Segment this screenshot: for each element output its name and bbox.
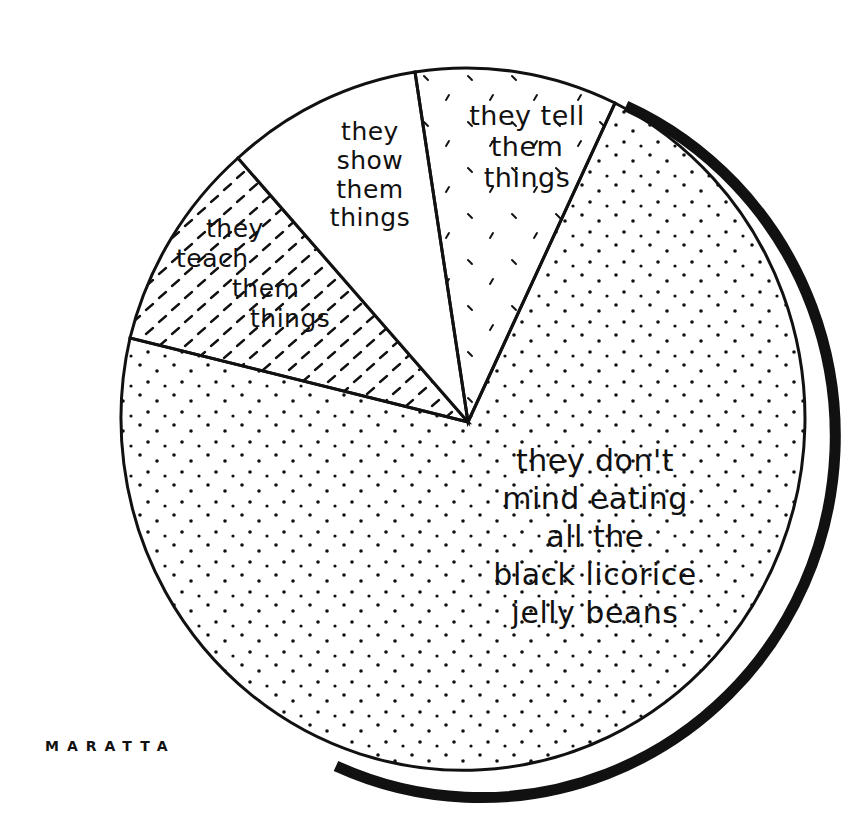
label-line: things — [452, 162, 602, 193]
label-line: jelly beans — [470, 594, 720, 632]
label-line: show — [300, 147, 440, 176]
label-licorice: they don't mind eating all the black lic… — [470, 442, 720, 632]
label-line: mind eating — [470, 480, 720, 518]
label-line: them — [300, 176, 440, 205]
label-line: they tell — [452, 100, 602, 131]
label-line: they — [300, 118, 440, 147]
label-line: they don't — [470, 442, 720, 480]
label-line: them — [168, 274, 338, 304]
label-tell: they tell them things — [452, 100, 602, 193]
label-line: them — [452, 131, 602, 162]
label-line: things — [168, 304, 338, 334]
label-line: teach — [168, 244, 338, 274]
label-line: all the — [470, 518, 720, 556]
label-line: black licorice — [470, 556, 720, 594]
label-teach: they teach them things — [168, 214, 338, 334]
label-line: they — [168, 214, 338, 244]
artist-signature: MARATTA — [45, 738, 175, 754]
